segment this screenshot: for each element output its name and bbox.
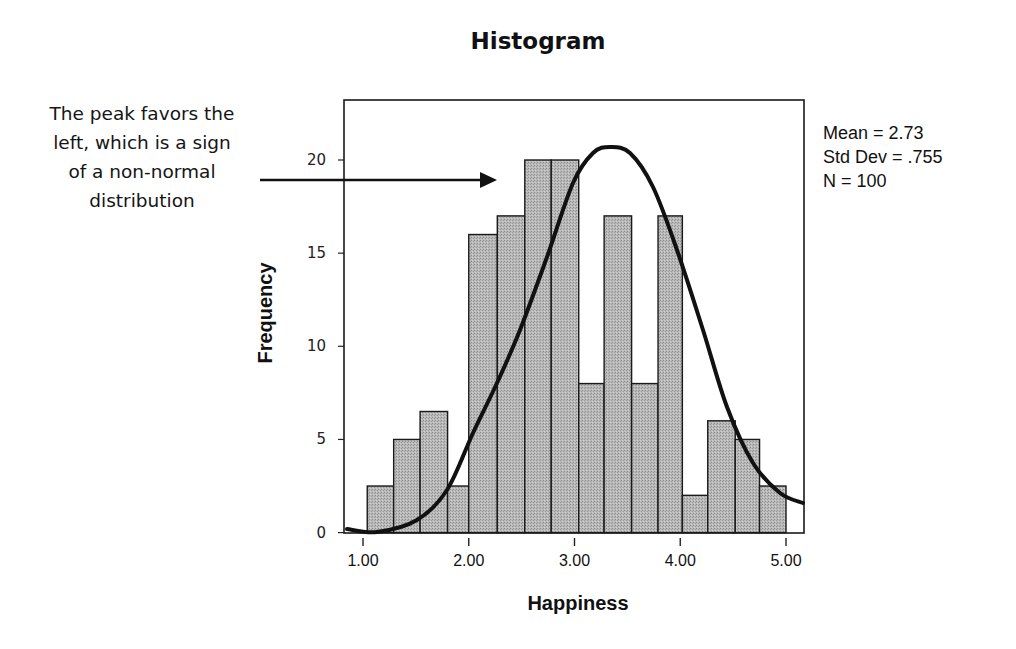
y-tick-label: 5 [316,430,326,448]
histogram-bar [604,216,631,533]
y-tick-label: 0 [316,524,326,542]
x-tick-label: 4.00 [665,552,696,569]
x-tick-label: 1.00 [347,552,378,569]
x-tick-label: 5.00 [770,552,801,569]
histogram-bar [525,160,551,533]
y-tick-label: 10 [307,337,326,355]
histogram-bar [632,384,658,533]
histogram-bar [682,495,707,532]
x-axis: 1.002.003.004.005.00 [347,538,801,569]
x-tick-label: 3.00 [559,552,590,569]
histogram-bar [551,160,578,533]
histogram-bar [579,384,604,533]
x-axis-title: Happiness [527,592,628,614]
histogram-bar [658,216,682,533]
histogram-bar [708,421,735,533]
histogram-chart: 05101520 1.002.003.004.005.00 Frequency … [0,0,1016,649]
y-tick-label: 15 [307,244,326,262]
histogram-bar [367,486,393,533]
histogram-bar [469,235,498,533]
y-axis: 05101520 [307,151,344,542]
y-tick-label: 20 [307,151,326,169]
y-axis-title: Frequency [254,262,276,364]
histogram-bar [448,486,469,533]
x-tick-label: 2.00 [453,552,484,569]
